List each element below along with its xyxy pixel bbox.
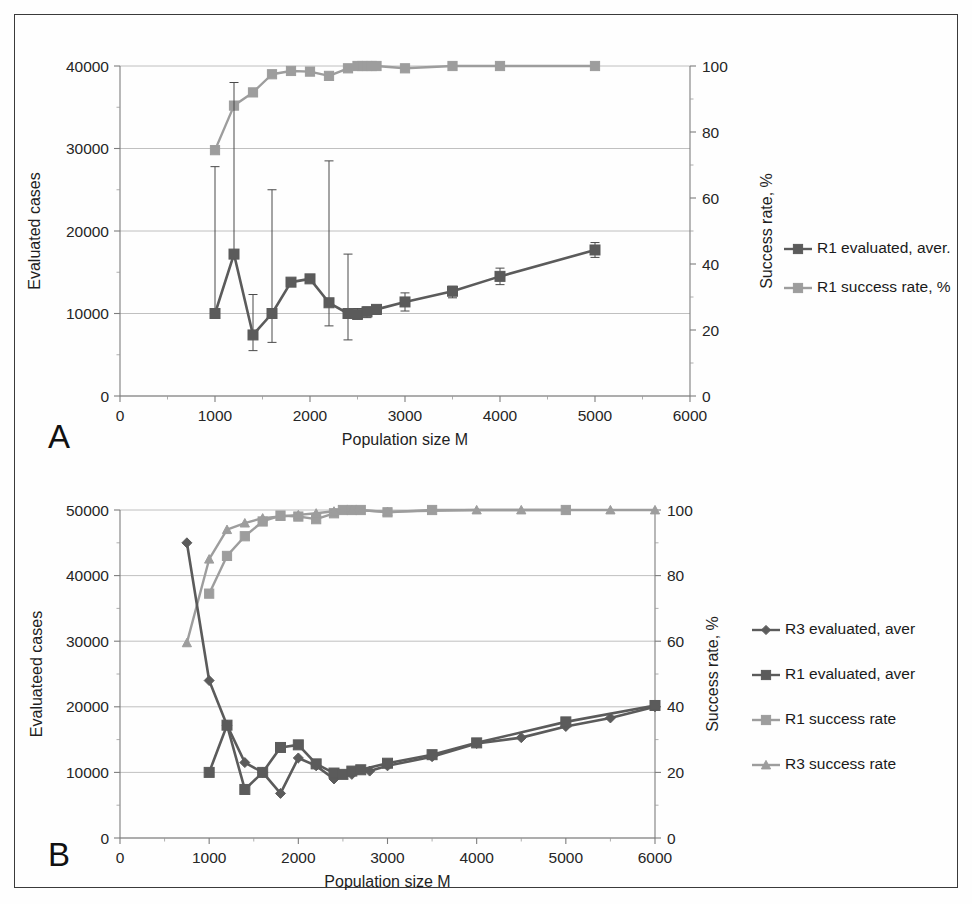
x-axis-tick-label: 0 <box>116 849 125 866</box>
x-axis-tick-label: 3000 <box>388 407 423 424</box>
y-axis-tick-label-right: 80 <box>702 124 720 141</box>
legend-label-2: R1 success rate, % <box>817 278 951 295</box>
legend-label-3: R1 success rate <box>785 710 896 727</box>
data-point-marker <box>324 71 333 80</box>
legend-label-2: R1 evaluated, aver <box>785 665 915 682</box>
x-axis-tick-label: 5000 <box>549 849 584 866</box>
data-point-marker <box>372 304 382 314</box>
y-axis-tick-label-right: 20 <box>667 764 685 781</box>
series-r3-success-rate <box>182 505 659 646</box>
y-axis-tick-label-left: 10000 <box>66 764 109 781</box>
y-axis-tick-label-left: 30000 <box>66 140 109 157</box>
x-axis-tick-label: 5000 <box>578 407 613 424</box>
chart-a-svg: 0100002000030000400000204060801000100020… <box>0 18 972 458</box>
data-point-marker <box>276 742 286 752</box>
y-axis-tick-label-right: 20 <box>702 322 720 339</box>
x-axis-tick-label: 6000 <box>638 849 673 866</box>
x-axis-tick-label: 2000 <box>293 407 328 424</box>
data-point-marker <box>204 767 214 777</box>
data-point-marker <box>343 64 352 73</box>
y-axis-tick-label-left: 40000 <box>66 58 109 75</box>
y-axis-tick-label-right: 0 <box>667 830 676 847</box>
x-axis-tick-label: 4000 <box>483 407 518 424</box>
data-point-marker <box>561 717 571 727</box>
data-point-marker <box>324 298 334 308</box>
data-point-marker <box>205 589 214 598</box>
figure-page: 0100002000030000400000204060801000100020… <box>0 0 972 904</box>
y-axis-title-right: Success rate, % <box>704 616 721 732</box>
y-axis-tick-label-right: 60 <box>702 190 720 207</box>
y-axis-tick-label-left: 40000 <box>66 567 109 584</box>
x-axis-tick-label: 6000 <box>673 407 708 424</box>
x-axis-tick-label: 4000 <box>459 849 494 866</box>
data-point-marker <box>267 70 276 79</box>
data-point-marker <box>793 244 802 253</box>
y-axis-tick-label-left: 30000 <box>66 633 109 650</box>
y-axis-tick-label-right: 0 <box>702 388 711 405</box>
y-axis-tick-label-left: 20000 <box>66 223 109 240</box>
data-point-marker <box>650 700 660 710</box>
chart-panel-b: 0100002000030000400005000002040608010001… <box>0 458 972 898</box>
data-point-marker <box>356 765 366 775</box>
data-point-marker <box>258 767 268 777</box>
y-axis-title-right: Success rate, % <box>758 173 775 289</box>
data-point-marker <box>761 625 770 634</box>
data-point-marker <box>210 309 220 319</box>
data-point-marker <box>248 88 257 97</box>
chart-panel-a: 0100002000030000400000204060801000100020… <box>0 18 972 458</box>
data-point-marker <box>448 61 457 70</box>
data-point-marker <box>210 146 219 155</box>
y-axis-tick-label-right: 100 <box>667 502 693 519</box>
data-point-marker <box>293 740 303 750</box>
data-point-marker <box>495 61 504 70</box>
y-axis-tick-label-right: 60 <box>667 633 685 650</box>
data-point-marker <box>240 784 250 794</box>
data-point-marker <box>761 715 770 724</box>
y-axis-title-left: Evaluated cases <box>26 172 43 289</box>
data-point-marker <box>472 738 482 748</box>
y-axis-tick-label-left: 10000 <box>66 305 109 322</box>
data-point-marker <box>311 759 321 769</box>
data-point-marker <box>343 309 353 319</box>
data-point-marker <box>590 61 599 70</box>
x-axis-tick-label: 1000 <box>198 407 233 424</box>
chart-legend: R3 evaluated, averR1 evaluated, averR1 s… <box>752 620 915 772</box>
data-point-marker <box>222 551 231 560</box>
data-point-marker <box>293 753 303 763</box>
data-point-marker <box>305 274 315 284</box>
data-point-marker <box>495 271 505 281</box>
x-axis-tick-label: 1000 <box>192 849 227 866</box>
data-point-marker <box>204 676 214 686</box>
y-axis-tick-label-right: 80 <box>667 567 685 584</box>
series-r1-evaluated-aver <box>204 700 660 794</box>
data-point-marker <box>793 283 802 292</box>
data-point-marker <box>240 758 250 768</box>
y-axis-title-left: Evaluateed cases <box>28 611 45 737</box>
legend-label-1: R1 evaluated, aver. <box>817 239 951 256</box>
data-point-marker <box>448 286 458 296</box>
x-axis-title: Population size M <box>342 431 468 448</box>
data-point-marker <box>761 670 770 679</box>
data-point-marker <box>240 532 249 541</box>
data-point-marker <box>248 330 258 340</box>
data-point-marker <box>267 309 277 319</box>
series-r1-evaluated-aver- <box>210 83 600 351</box>
x-axis-tick-label: 2000 <box>281 849 316 866</box>
chart-b-svg: 0100002000030000400005000002040608010001… <box>0 458 972 898</box>
data-point-marker <box>222 720 232 730</box>
y-axis-tick-label-left: 50000 <box>66 502 109 519</box>
data-point-marker <box>362 307 372 317</box>
data-point-marker <box>427 750 437 760</box>
series-r3-evaluated-aver <box>182 538 660 799</box>
panel-b-letter: B <box>48 836 70 874</box>
y-axis-tick-label-left: 0 <box>100 388 109 405</box>
data-point-marker <box>383 758 393 768</box>
data-point-marker <box>286 66 295 75</box>
data-point-marker <box>590 245 600 255</box>
legend-label-1: R3 evaluated, aver <box>785 620 915 637</box>
series-line <box>187 510 655 643</box>
x-axis-tick-label: 3000 <box>370 849 405 866</box>
y-axis-tick-label-right: 40 <box>667 698 685 715</box>
data-point-marker <box>229 249 239 259</box>
y-axis-tick-label-right: 40 <box>702 256 720 273</box>
